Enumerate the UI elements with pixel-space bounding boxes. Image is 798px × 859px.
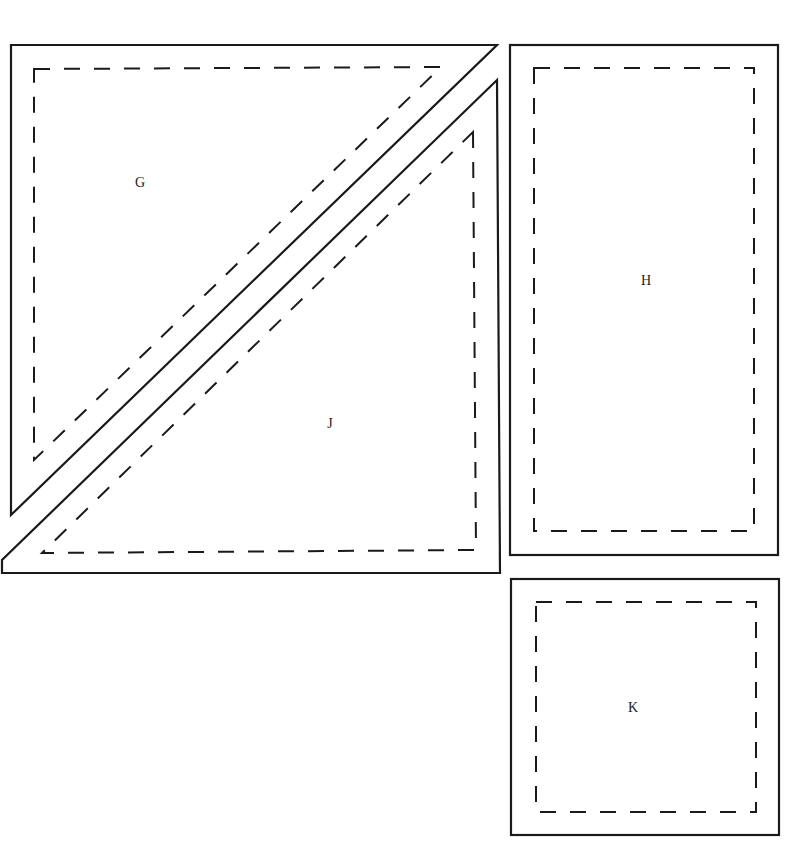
piece-j-cut-line [2, 80, 500, 573]
piece-j-label: J [327, 416, 333, 431]
piece-k-label: K [628, 700, 638, 715]
piece-g-seam-line [34, 67, 441, 460]
piece-g: G [11, 45, 497, 515]
piece-h-cut-line [510, 45, 778, 555]
piece-g-cut-line [11, 45, 497, 515]
piece-h: H [510, 45, 778, 555]
piece-k-seam-line [536, 602, 756, 812]
quilt-pattern-canvas: G J H K [0, 0, 798, 859]
piece-g-label: G [135, 175, 145, 190]
piece-k: K [511, 579, 779, 835]
piece-j: J [2, 80, 500, 573]
piece-j-seam-line [42, 132, 476, 553]
piece-h-label: H [641, 273, 651, 288]
piece-k-cut-line [511, 579, 779, 835]
piece-h-seam-line [534, 68, 754, 531]
